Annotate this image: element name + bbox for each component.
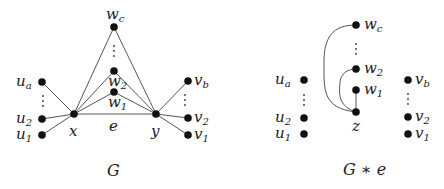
- caption-G-star-e: G ∗ e: [343, 160, 386, 179]
- edge-x-ua: [42, 82, 74, 114]
- node-w2: [352, 65, 360, 73]
- ellipsis-v: [407, 93, 409, 105]
- node-w1: [352, 86, 360, 94]
- node-vb: [184, 77, 192, 85]
- node-u2: [38, 115, 46, 123]
- ellipsis-w: [355, 43, 357, 55]
- node-v1: [184, 131, 192, 139]
- label-ua: ua: [16, 72, 32, 91]
- node-wc: [352, 21, 360, 29]
- label-w2: w2: [108, 72, 127, 91]
- node-vb: [404, 76, 412, 84]
- node-x: [70, 110, 78, 118]
- node-u1: [38, 131, 46, 139]
- ellipsis-v: [184, 94, 186, 106]
- label-wc: wc: [364, 15, 383, 34]
- edge-z-wc: [324, 25, 356, 112]
- node-v2: [184, 114, 192, 122]
- label-x: x: [69, 122, 78, 140]
- node-wc: [110, 23, 118, 31]
- graph-diagram-canvas: wc w2 w1 x y e ua u2 u1 vb v2 v1 G: [0, 0, 444, 189]
- node-ua: [300, 76, 308, 84]
- edge-y-vb: [156, 81, 188, 114]
- label-w2: w2: [364, 59, 383, 78]
- node-u2: [300, 114, 308, 122]
- node-y: [152, 110, 160, 118]
- node-z: [352, 108, 360, 116]
- ellipsis-u: [303, 94, 305, 106]
- graph-G-star-e: wc w2 w1 z ua u2 u1 vb v2 v1 G ∗ e: [275, 15, 430, 179]
- label-v1: v1: [194, 125, 209, 144]
- label-vb: vb: [194, 71, 209, 90]
- node-v2: [404, 113, 412, 121]
- label-ua: ua: [275, 70, 291, 89]
- label-vb: vb: [415, 70, 430, 89]
- caption-G: G: [107, 161, 120, 180]
- label-edge-e: e: [109, 117, 118, 135]
- graph-G: wc w2 w1 x y e ua u2 u1 vb v2 v1 G: [16, 5, 209, 180]
- label-z: z: [351, 117, 360, 135]
- edge-x-u2: [42, 114, 74, 119]
- node-v1: [404, 130, 412, 138]
- label-wc: wc: [106, 5, 125, 24]
- node-ua: [38, 78, 46, 86]
- label-y: y: [150, 122, 160, 140]
- ellipsis-w: [113, 45, 115, 57]
- label-w1: w1: [364, 80, 383, 99]
- label-v1: v1: [415, 124, 430, 143]
- node-u1: [300, 130, 308, 138]
- ellipsis-u: [42, 95, 44, 107]
- label-w1: w1: [108, 93, 127, 112]
